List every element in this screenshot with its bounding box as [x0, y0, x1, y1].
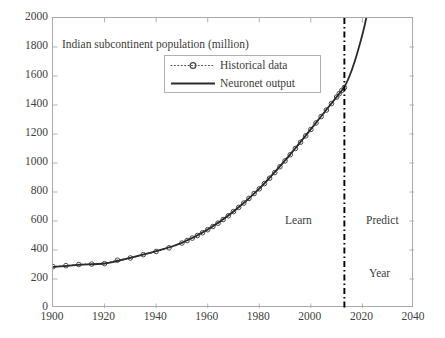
figure-canvas: 0200400600800100012001400160018002000 In… — [0, 0, 445, 338]
legend-item-neuronet: Neuronet output — [165, 74, 322, 93]
x-axis-title-year: Year — [369, 267, 390, 279]
y-tick-label: 1400 — [0, 98, 48, 110]
legend-sample-historical-icon — [170, 56, 216, 75]
chart-title: Indian subcontinent population (million) — [62, 38, 249, 50]
x-tick-label: 1940 — [130, 311, 180, 323]
x-tick-label: 2000 — [285, 311, 335, 323]
learn-zone-label: Learn — [285, 214, 312, 226]
y-tick-label: 1800 — [0, 40, 48, 52]
y-tick-label: 1200 — [0, 127, 48, 139]
y-axis-tick-labels: 0200400600800100012001400160018002000 — [0, 0, 48, 338]
y-tick-label: 400 — [0, 243, 48, 255]
y-tick-label: 1000 — [0, 156, 48, 168]
y-tick-label: 1600 — [0, 69, 48, 81]
y-tick-label: 2000 — [0, 11, 48, 23]
y-tick-label: 200 — [0, 272, 48, 284]
predict-zone-label: Predict — [366, 214, 399, 226]
legend-box: Historical data Neuronet output — [164, 55, 321, 93]
y-tick-label: 800 — [0, 185, 48, 197]
x-axis-tick-labels: 19001920194019601980200020202040 — [0, 311, 445, 331]
x-tick-label: 2020 — [336, 311, 386, 323]
x-tick-label: 2040 — [388, 311, 438, 323]
legend-label-historical: Historical data — [220, 59, 287, 72]
x-tick-label: 1980 — [233, 311, 283, 323]
plot-area: Indian subcontinent population (million)… — [52, 17, 413, 307]
x-tick-label: 1960 — [182, 311, 232, 323]
x-tick-label: 1920 — [79, 311, 129, 323]
legend-item-historical: Historical data — [165, 56, 322, 75]
y-tick-label: 600 — [0, 214, 48, 226]
legend-sample-neuronet-icon — [170, 74, 216, 93]
x-tick-label: 1900 — [27, 311, 77, 323]
legend-label-neuronet: Neuronet output — [220, 77, 295, 90]
